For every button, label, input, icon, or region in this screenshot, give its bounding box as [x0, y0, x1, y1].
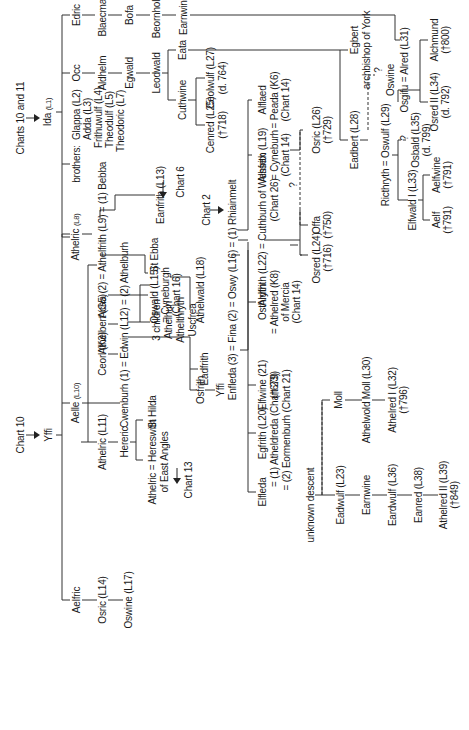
person-earnwine-2: Earnwine [361, 475, 372, 515]
chart10-ref: Chart 10 [15, 417, 26, 454]
person-eanred: Eanred (L38) [413, 467, 424, 523]
alhfrith-chart-ref: (Chart 14) [280, 133, 291, 176]
person-elfwald: Elfwald I (L33) [407, 170, 418, 231]
chart13-ref: Chart 13 [183, 462, 194, 499]
person-ida: Ida (L1) [42, 98, 54, 126]
cenred-death: (†718) [217, 111, 228, 139]
person-hereric: Hereric [119, 427, 130, 458]
person-athelric-l8: Athelric (L8) [70, 214, 82, 261]
person-osred-l24: Osred (L24) [311, 232, 322, 283]
person-leodwald: Leodwald [151, 52, 162, 93]
osthryth-chart-ref: (Chart 14) [291, 280, 302, 323]
person-beornholm: Beornholm [151, 0, 162, 38]
athelfrith-marriage-line: Acha (2) = Athelfrith (L9) = (1) Bebba [97, 162, 108, 318]
person-st-hilda: St Hilda [147, 395, 158, 428]
person-edric: Edric [71, 4, 82, 26]
person-aldhelm: Aldhelm [97, 56, 108, 91]
uncertain-marker-3: ? [399, 135, 410, 140]
person-bofa: Bofa [124, 5, 135, 25]
chart2-ref: Chart 2 [201, 194, 212, 225]
person-offa: Offa [311, 216, 322, 234]
oswald-spouse: = Cyneburgh [160, 267, 171, 322]
osric-l26-death: (†729) [322, 116, 333, 144]
person-blaecman: Blaecman [97, 0, 108, 36]
alflaed-chart-ref: (Chart 14) [280, 78, 291, 121]
person-osred-ii: Osred II (L34) [429, 73, 440, 132]
aldfrith-chart-ref: (Chart 26) [269, 178, 280, 221]
person-alchmund: Alchmund [429, 19, 440, 62]
aelle-ref: (L10) [72, 383, 81, 400]
aelf-death: (†791) [442, 206, 453, 234]
unknown-descent-label: unknown descent [305, 468, 316, 543]
person-athelwald-l18: Athelwald (L18) [195, 257, 206, 323]
alchmund-death: (†800) [440, 26, 451, 54]
aelle-name: Aelle [70, 402, 81, 423]
of-east-angles: of East Angles [159, 431, 170, 492]
brother-adda: Adda (L3) [82, 98, 93, 140]
brothers-label: brothers: [71, 145, 82, 183]
osred-ii-death: (d. 792) [440, 86, 451, 119]
brother-theodoric: Theodoric (L7) [115, 90, 126, 152]
person-eata: Eata [177, 40, 188, 60]
genealogy-chart: Chart 10 Yffi Aelfric Aelle (L10) Osric … [0, 0, 469, 730]
brother-theodulf: Theodulf (L5) [104, 91, 115, 148]
person-occ: Occ [71, 64, 82, 81]
person-cuthwine: Cuthwine [177, 80, 188, 120]
athelric-hereswith: Athelric = Hereswith [147, 419, 158, 504]
osthryth-spouse: = Athelred (K8) [269, 270, 280, 334]
elfwine-death: (†679) [269, 371, 280, 399]
person-osric-l26: Osric (L26) [311, 106, 322, 153]
person-alflaed: Alflaed [257, 85, 268, 114]
person-earnwine: Earnwine [178, 0, 189, 35]
person-egbert: Egbert [349, 26, 360, 54]
person-oswine-l17: Oswine (L17) [123, 571, 134, 628]
person-athelwold-moll: Athelwold Moll (L30) [361, 357, 372, 444]
person-aelfric: Aelfric [71, 587, 82, 613]
person-oswine-2: Oswine [385, 64, 396, 96]
chart6-ref: Chart 6 [175, 166, 186, 197]
ceolwulf-death: (d. 764) [217, 62, 228, 95]
athelred-ii-death: (†849) [449, 481, 460, 509]
alred-marriage-line: Osgifu = Alred (L31) [399, 27, 410, 112]
oswy-marriage-line: Enfleda (3) = Fina (2) = Oswy (L16) = (1… [227, 180, 238, 401]
person-yffi: Yffi [43, 428, 54, 441]
person-yffi-2: Yffi [215, 383, 226, 396]
person-st-ebba: St Ebba [149, 238, 160, 272]
person-eadbert: Eadbert (L28) [349, 111, 360, 170]
person-aelle: Aelle (L10) [70, 383, 82, 423]
ida-name: Ida [42, 113, 53, 126]
edwin-marriage-line: Cwenburh (1) = Edwin (L12) = (2) Athelbu… [119, 242, 130, 428]
uncertain-marker-2: ? [373, 67, 384, 72]
person-aelf: Aelf [431, 212, 442, 228]
oswald-chart-ref: (Chart 16) [171, 273, 182, 316]
person-eadfrith: Eadfrith [199, 353, 210, 386]
person-eardwulf: Eardwulf (L36) [387, 464, 398, 526]
person-eanfrith: Eanfrith (L13) [155, 166, 166, 224]
alhfrith-spouse: = Cyneburh [269, 130, 280, 180]
person-athelric-l11: Athelric (L11) [97, 414, 108, 470]
athelred-i-death: (†796) [398, 386, 409, 414]
oswulf-marriage-line: Ricthryth = Oswulf (L29) [380, 104, 391, 207]
person-oswald: Oswald (L15) [149, 266, 160, 323]
egbert-title: archbishop of York [361, 11, 372, 90]
brother-frithuwulf: Frithuwulf (L4) [93, 87, 104, 148]
ida-ref: (L1) [44, 98, 53, 111]
person-elfwine: Elfwine (21) [257, 360, 268, 410]
person-aelfwine: Aelfwine [431, 157, 442, 193]
person-osbald: Osbald (L35) [410, 112, 421, 167]
osred-l24-death: (†716) [322, 244, 333, 272]
athelric-l8-name: Athelric [70, 229, 81, 261]
brother-glappa: Glappa (L2) [71, 89, 82, 140]
person-athelred-ii: Athelred II (L39) [438, 461, 449, 529]
person-eadwulf: Eadwulf (L23) [335, 465, 346, 524]
person-ceolwulf: Ceolwulf (L27) [205, 47, 216, 109]
person-egwald: Egwald [124, 57, 135, 89]
person-osric-l14: Osric (L14) [97, 576, 108, 623]
athelric-l8-ref: (L8) [72, 214, 81, 227]
person-elfleda: Elfleda [257, 477, 268, 506]
of-mercia: of Mercia [280, 282, 291, 321]
person-egfrith: Egfrith (L20) [257, 407, 268, 459]
egfrith-spouse-2: = (2) Eormenburh (Chart 21) [281, 369, 292, 490]
charts-10-11-ref: Charts 10 and 11 [15, 82, 26, 155]
offa-death: (†750) [322, 211, 333, 239]
